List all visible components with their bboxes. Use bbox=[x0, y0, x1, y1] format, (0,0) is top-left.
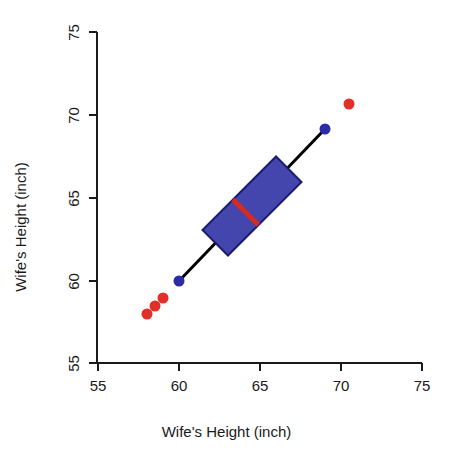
y-tick-label-55: 55 bbox=[65, 352, 82, 376]
whisker-endpoint-point bbox=[174, 276, 185, 287]
chart-plot-area bbox=[0, 0, 453, 454]
whisker-endpoint-point bbox=[320, 124, 331, 135]
x-axis-title: Wife's Height (inch) bbox=[0, 423, 453, 440]
outlier-point bbox=[344, 99, 355, 110]
y-tick-label-60: 60 bbox=[65, 270, 82, 294]
x-tick-label-60: 60 bbox=[167, 377, 191, 394]
outlier-point bbox=[150, 301, 161, 312]
x-tick-label-75: 75 bbox=[410, 377, 434, 394]
x-tick-label-55: 55 bbox=[86, 377, 110, 394]
x-tick-label-70: 70 bbox=[329, 377, 353, 394]
y-tick-label-65: 65 bbox=[65, 187, 82, 211]
boxplot-box bbox=[203, 157, 302, 256]
boxplot-box-group bbox=[203, 157, 302, 256]
x-tick-label-65: 65 bbox=[248, 377, 272, 394]
y-tick-label-75: 75 bbox=[65, 21, 82, 45]
chart-figure: 75 70 65 60 55 55 60 65 70 75 Wife's Hei… bbox=[0, 0, 453, 454]
y-axis bbox=[89, 32, 97, 363]
y-tick-label-70: 70 bbox=[65, 104, 82, 128]
outlier-point bbox=[142, 309, 153, 320]
x-axis bbox=[97, 363, 422, 371]
outlier-point bbox=[158, 293, 169, 304]
y-axis-title: Wife's Height (inch) bbox=[12, 127, 32, 327]
